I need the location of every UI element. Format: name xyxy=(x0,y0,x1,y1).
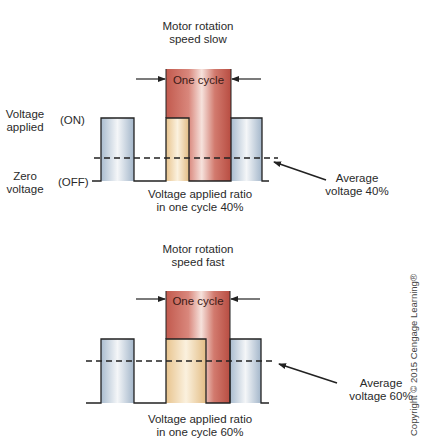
on-state-label: (ON) xyxy=(60,114,85,127)
cycle-label-fast: One cycle xyxy=(166,295,230,308)
copyright-notice: Copyright © 2015 Cengage Learning® xyxy=(408,274,419,436)
on-line-2: applied xyxy=(5,121,45,134)
title-line-2: speed fast xyxy=(158,256,238,269)
average-label-fast: Average voltage 60% xyxy=(346,377,416,403)
cycle-label-slow: One cycle xyxy=(166,74,231,87)
voltage-applied-label: Voltage applied xyxy=(5,108,45,134)
title-fast: Motor rotation speed fast xyxy=(158,243,238,269)
ratio-line-1: Voltage applied ratio xyxy=(140,188,260,201)
average-arrow xyxy=(274,162,326,180)
title-slow: Motor rotation speed slow xyxy=(158,20,238,46)
title-line-1: Motor rotation xyxy=(158,243,238,256)
average-line-1: Average xyxy=(322,172,392,185)
off-line-1: Zero xyxy=(5,170,45,183)
title-line-1: Motor rotation xyxy=(158,20,238,33)
ratio-line-2: in one cycle 40% xyxy=(140,201,260,214)
pulse-active xyxy=(166,118,189,181)
ratio-line-1: Voltage applied ratio xyxy=(140,413,260,426)
average-label-slow: Average voltage 40% xyxy=(322,172,392,198)
ratio-label-slow: Voltage applied ratio in one cycle 40% xyxy=(140,188,260,214)
pulse-left xyxy=(101,118,134,181)
title-line-2: speed slow xyxy=(158,33,238,46)
on-line-1: Voltage xyxy=(5,108,45,121)
average-line-2: voltage 60% xyxy=(346,390,416,403)
pulse-right xyxy=(231,118,262,181)
ratio-label-fast: Voltage applied ratio in one cycle 60% xyxy=(140,413,260,439)
ratio-line-2: in one cycle 60% xyxy=(140,426,260,439)
pulse-right xyxy=(230,339,261,403)
off-line-2: voltage xyxy=(5,183,45,196)
off-state-label: (OFF) xyxy=(58,176,89,189)
average-arrow xyxy=(279,364,337,383)
average-line-1: Average xyxy=(346,377,416,390)
zero-voltage-label: Zero voltage xyxy=(5,170,45,196)
pulse-active xyxy=(166,339,206,403)
pulse-left xyxy=(101,339,134,403)
average-line-2: voltage 40% xyxy=(322,185,392,198)
